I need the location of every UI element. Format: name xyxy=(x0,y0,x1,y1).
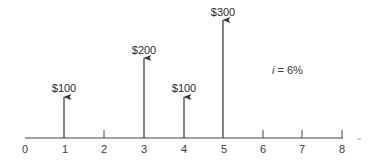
tick-label-8: 8 xyxy=(339,143,345,155)
tick-label-3: 3 xyxy=(141,143,147,155)
tick-label-6: 6 xyxy=(260,143,266,155)
cash-flow-label-period-4: $100 xyxy=(172,82,196,94)
cash-flow-label-period-5: $300 xyxy=(211,6,235,18)
interest-rate-value: = 6% xyxy=(278,64,303,76)
tick-label-0: 0 xyxy=(22,143,28,155)
tick-label-2: 2 xyxy=(101,143,107,155)
interest-rate-annotation: i = 6% xyxy=(272,64,303,76)
cash-flow-label-period-1: $100 xyxy=(52,82,76,94)
cash-flow-diagram xyxy=(0,0,381,161)
interest-rate-symbol: i xyxy=(272,64,274,76)
tick-label-5: 5 xyxy=(221,143,227,155)
tick-label-4: 4 xyxy=(181,143,187,155)
tick-label-1: 1 xyxy=(62,143,68,155)
tick-label-7: 7 xyxy=(299,143,305,155)
cash-flow-label-period-3: $200 xyxy=(132,44,156,56)
